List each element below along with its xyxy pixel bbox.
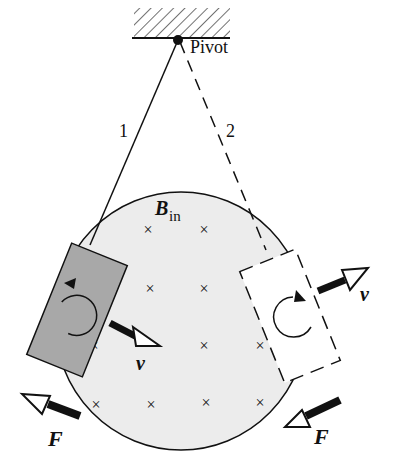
- force-arrow-right: [285, 400, 340, 427]
- position-1-label: 1: [119, 121, 128, 141]
- field-marker: ×: [255, 337, 264, 354]
- pivot-label: Pivot: [190, 37, 228, 57]
- pivot-point: [173, 35, 183, 45]
- velocity-label-right: v: [360, 283, 370, 305]
- velocity-label-left: v: [136, 352, 146, 374]
- field-marker: ×: [199, 280, 208, 297]
- field-label-sub: in: [169, 208, 181, 224]
- field-marker: ×: [146, 396, 155, 413]
- ceiling-support: [132, 8, 230, 38]
- force-label-left: F: [47, 426, 63, 451]
- field-marker: ×: [199, 221, 208, 238]
- position-2-label: 2: [226, 121, 235, 141]
- field-marker: ×: [143, 221, 152, 238]
- field-marker: ×: [91, 396, 100, 413]
- force-label-right: F: [313, 424, 329, 449]
- field-marker: ×: [145, 280, 154, 297]
- field-marker: ×: [255, 394, 264, 411]
- force-arrow-left: [22, 394, 80, 416]
- field-label-main: B: [154, 197, 168, 219]
- field-marker: ×: [199, 337, 208, 354]
- pendulum-magnetic-field-diagram: × × × × × × × × × × × Pivot 1 2 B in: [0, 0, 396, 464]
- field-marker: ×: [201, 394, 210, 411]
